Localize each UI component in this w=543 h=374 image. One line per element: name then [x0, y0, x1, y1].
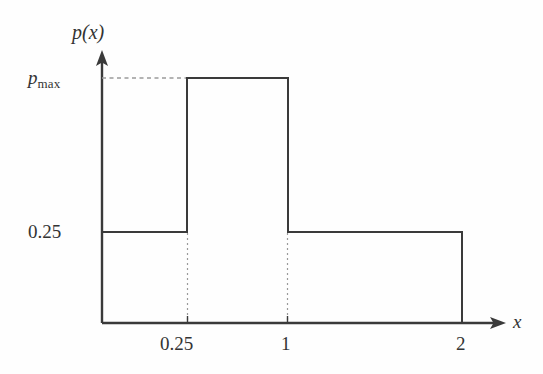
x-tick-label-1: 1 — [281, 334, 291, 353]
pmax-subscript: max — [38, 76, 61, 91]
x-tick-label-025: 0.25 — [160, 334, 193, 353]
histogram-step-outline — [102, 78, 462, 323]
figure-container: p(x) x pmax 0.25 0.25 1 2 — [0, 0, 543, 374]
y-axis-label: p(x) — [72, 22, 104, 42]
pmax-base-letter: p — [28, 67, 38, 88]
x-axis-label: x — [513, 312, 521, 331]
y-tick-label-pmax: pmax — [28, 68, 60, 90]
histogram-plot — [0, 0, 543, 374]
x-axis-group — [102, 317, 506, 329]
y-tick-label-025: 0.25 — [28, 222, 61, 241]
y-axis-group — [96, 50, 108, 323]
x-tick-label-2: 2 — [456, 334, 466, 353]
